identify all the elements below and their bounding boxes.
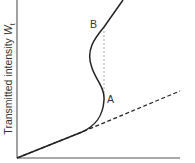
bistability-diagram [0, 0, 195, 163]
point-b-label: B [90, 18, 97, 30]
point-a-label: A [107, 93, 114, 105]
hysteresis-curve [17, 0, 123, 158]
